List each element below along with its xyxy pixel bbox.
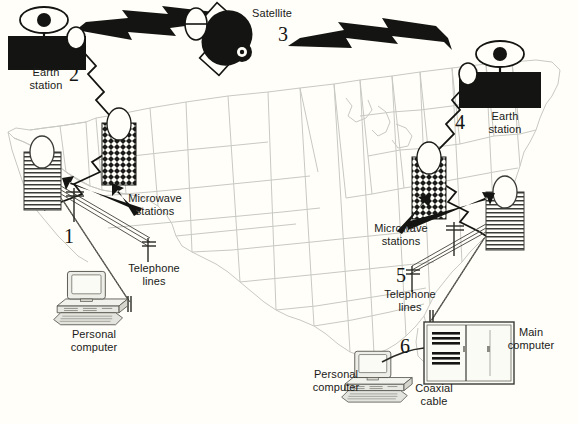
microwave-tower-west-hatched: [102, 108, 136, 185]
label-microwave-stations-west: Microwave stations: [112, 192, 198, 217]
label-telephone-lines-east: Telephone lines: [372, 288, 448, 313]
diagram-canvas: Earth station 2 Satellite 3 Earth statio…: [0, 0, 578, 424]
callout-number-4: 4: [455, 112, 465, 132]
label-telephone-lines-west: Telephone lines: [116, 262, 192, 287]
label-personal-computer-east: Personal computer: [294, 368, 378, 393]
label-main-computer: Main computer: [500, 326, 562, 351]
label-microwave-stations-east: Microwave stations: [358, 222, 444, 247]
label-personal-computer-west: Personal computer: [52, 328, 136, 353]
callout-number-1: 1: [64, 226, 74, 246]
callout-number-6: 6: [400, 336, 410, 356]
diagram-graphics: [0, 0, 578, 424]
label-coaxial-cable: Coaxial cable: [404, 382, 464, 407]
callout-number-2: 2: [69, 64, 79, 84]
label-earth-station-east: Earth station: [472, 110, 538, 135]
label-satellite: Satellite: [252, 7, 314, 20]
microwave-tower-east-hatched: [412, 142, 446, 219]
callout-number-3: 3: [278, 24, 288, 44]
callout-number-5: 5: [396, 265, 406, 285]
